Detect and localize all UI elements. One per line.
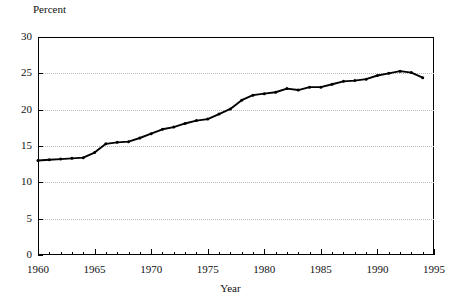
chart-container: Percent 051015202530 1960196519701975198… [0, 0, 461, 305]
data-point-1979 [251, 94, 254, 97]
data-point-1991 [387, 72, 390, 75]
x-tick-label-1960: 1960 [27, 264, 49, 275]
x-axis-title: Year [0, 282, 461, 294]
data-point-1967 [116, 141, 119, 144]
data-point-1962 [59, 158, 62, 161]
data-point-1994 [421, 76, 424, 79]
data-point-1973 [184, 122, 187, 125]
y-tick-label-25: 25 [2, 67, 32, 78]
data-point-1983 [297, 89, 300, 92]
data-point-1968 [127, 140, 130, 143]
data-point-1964 [82, 156, 85, 159]
data-point-1990 [376, 74, 379, 77]
x-tick-label-1995: 1995 [423, 264, 445, 275]
series-markers [37, 70, 425, 162]
data-point-1960 [37, 159, 40, 162]
data-point-1978 [240, 99, 243, 102]
data-point-1988 [353, 79, 356, 82]
y-tick-label-15: 15 [2, 140, 32, 151]
series-line-percent [38, 71, 423, 160]
data-point-1971 [161, 128, 164, 131]
data-point-1987 [342, 80, 345, 83]
y-tick-label-30: 30 [2, 31, 32, 42]
y-tick-mark-0 [38, 255, 43, 256]
data-point-1993 [410, 71, 413, 74]
data-point-1981 [274, 91, 277, 94]
data-point-1992 [399, 70, 402, 73]
y-tick-label-5: 5 [2, 213, 32, 224]
x-tick-label-1980: 1980 [253, 264, 275, 275]
data-point-1975 [206, 118, 209, 121]
x-tick-label-1975: 1975 [197, 264, 219, 275]
y-axis-title: Percent [33, 3, 66, 15]
x-tick-label-1965: 1965 [84, 264, 106, 275]
x-tick-label-1985: 1985 [310, 264, 332, 275]
data-point-1980 [263, 92, 266, 95]
data-point-1986 [331, 83, 334, 86]
x-tick-label-1990: 1990 [366, 264, 388, 275]
data-point-1985 [319, 86, 322, 89]
y-tick-label-10: 10 [2, 176, 32, 187]
data-point-1963 [70, 157, 73, 160]
data-point-1977 [229, 107, 232, 110]
x-tick-label-1970: 1970 [140, 264, 162, 275]
data-point-1989 [365, 78, 368, 81]
data-point-1974 [195, 119, 198, 122]
data-point-1984 [308, 86, 311, 89]
data-point-1982 [285, 87, 288, 90]
data-point-1976 [218, 113, 221, 116]
data-point-1969 [138, 137, 141, 140]
data-point-1961 [48, 158, 51, 161]
data-point-1966 [104, 142, 107, 145]
x-tick-mark-1995 [434, 249, 435, 255]
data-point-1965 [93, 151, 96, 154]
y-tick-label-20: 20 [2, 104, 32, 115]
data-point-1970 [150, 132, 153, 135]
series-plot [38, 37, 434, 255]
data-point-1972 [172, 126, 175, 129]
y-tick-label-0: 0 [2, 249, 32, 260]
